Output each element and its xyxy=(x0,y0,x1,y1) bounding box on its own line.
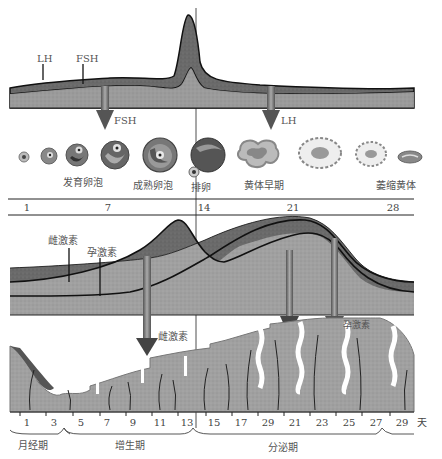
cycle-day-tick: 3 xyxy=(51,418,57,428)
phase-braces xyxy=(10,428,414,434)
fsh-arrow-label: FSH xyxy=(114,116,137,126)
cycle-day-tick: 29 xyxy=(396,418,409,428)
cycle-day-tick: 25 xyxy=(343,418,356,428)
menstrual-phase-brace xyxy=(10,428,70,434)
primary-follicle xyxy=(41,148,57,164)
menstrual-cycle-diagram xyxy=(0,0,442,459)
ovarian-hormone-curves xyxy=(10,216,414,315)
lh-label: LH xyxy=(37,54,52,64)
cycle-day-unit: 天 xyxy=(417,418,427,428)
mid-corpus-luteum xyxy=(299,138,341,168)
ovary-day-tick: 21 xyxy=(287,203,300,213)
stage-label-mature-follicle: 成熟卵泡 xyxy=(133,181,173,191)
phase-label-proliferative: 增生期 xyxy=(115,441,145,451)
primordial-follicle xyxy=(19,152,29,162)
ovary-day-tick: 14 xyxy=(198,203,211,213)
proliferative-phase-brace xyxy=(64,428,193,434)
ovary-day-tick: 1 xyxy=(24,203,30,213)
corpus-albicans xyxy=(398,151,422,163)
estrogen-label: 雌激素 xyxy=(48,236,78,246)
early-corpus-luteum xyxy=(238,141,278,168)
stage-label-ovulation: 排卵 xyxy=(191,183,211,193)
lh-arrow-label: LH xyxy=(281,116,296,126)
cycle-day-tick: 7 xyxy=(104,418,110,428)
cycle-day-tick: 11 xyxy=(154,418,167,428)
secretory-phase-brace xyxy=(193,428,414,434)
cycle-day-tick: 13 xyxy=(181,418,194,428)
ovary-day-tick: 28 xyxy=(387,203,400,213)
cycle-day-tick: 29 xyxy=(262,418,275,428)
cycle-day-tick: 5 xyxy=(78,418,84,428)
phase-label-secretory: 分泌期 xyxy=(268,443,298,453)
pituitary-hormone-curves xyxy=(10,15,414,108)
cycle-day-tick: 15 xyxy=(208,418,221,428)
cycle-day-tick: 27 xyxy=(370,418,383,428)
tertiary-follicle xyxy=(101,141,129,169)
fsh-label: FSH xyxy=(76,54,99,64)
ovary-day-tick: 7 xyxy=(105,203,111,213)
cycle-day-tick: 21 xyxy=(289,418,302,428)
stage-label-regressing-corpus-luteum: 萎缩黄体 xyxy=(376,181,416,191)
cycle-day-tick: 17 xyxy=(235,418,248,428)
cycle-day-tick: 23 xyxy=(316,418,329,428)
cycle-day-tick: 9 xyxy=(130,418,136,428)
ovulating-follicle xyxy=(189,138,225,177)
progesterone-label: 孕激素 xyxy=(87,248,117,258)
stage-label-developing-follicle: 发育卵泡 xyxy=(63,178,103,188)
phase-label-menstrual: 月经期 xyxy=(18,441,48,451)
cycle-day-tick: 1 xyxy=(24,418,30,428)
stage-label-early-corpus-luteum: 黄体早期 xyxy=(244,181,284,191)
mature-follicle xyxy=(143,138,177,172)
endometrium-tick-marks xyxy=(20,412,390,416)
secondary-follicle xyxy=(66,144,88,166)
late-corpus-luteum xyxy=(356,142,386,166)
endometrium-illustration xyxy=(10,318,414,412)
progesterone-arrow-label: 孕激素 xyxy=(343,321,370,330)
follicle-illustrations xyxy=(19,138,422,177)
estrogen-arrow-label: 雌激素 xyxy=(158,332,188,342)
